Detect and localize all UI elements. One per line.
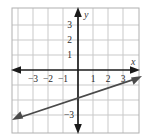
graph-canvas: −3 −2 −1 1 2 3 3 2 1 −3 y x: [0, 0, 147, 139]
y-tick-label: 1: [67, 50, 72, 60]
x-axis-label: x: [130, 56, 136, 67]
y-tick-label: 2: [67, 35, 72, 45]
x-tick-label: 1: [91, 74, 96, 84]
y-tick-label: −3: [64, 110, 74, 120]
x-tick-label: 2: [106, 74, 111, 84]
y-tick-label: 3: [67, 20, 72, 30]
x-tick-label: −2: [43, 74, 53, 84]
x-tick-label: −1: [58, 74, 68, 84]
x-tick-label: −3: [28, 74, 38, 84]
y-axis-label: y: [83, 9, 89, 20]
coordinate-plane-figure: −3 −2 −1 1 2 3 3 2 1 −3 y x: [0, 0, 147, 139]
